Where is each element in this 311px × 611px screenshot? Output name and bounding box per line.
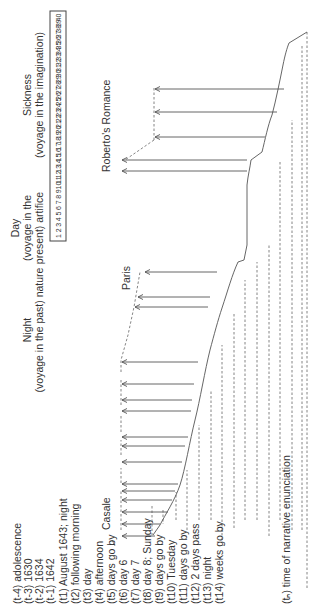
arrows: [122, 87, 284, 539]
timeline-label: (t8) day 8; Sunday: [141, 517, 153, 604]
header-sickness: Sickness (voyage in the imagination): [21, 32, 45, 158]
scale-number: 2: [55, 228, 62, 232]
chapter-scale: 1234567891011121314151617181920212223242…: [50, 11, 66, 241]
night-title: Night: [21, 318, 33, 343]
timeline-label: (t12) 2 days pass: [189, 523, 201, 604]
timeline-label: (t5) days go by: [105, 534, 117, 604]
scale-number: 3: [55, 223, 62, 227]
header-night: Night (voyage in the past) nature: [21, 267, 45, 392]
night-subtitle: (voyage in the past) nature: [33, 267, 45, 392]
scale-number: 4: [55, 217, 62, 221]
sickness-title: Sickness: [21, 74, 33, 116]
narrative-time-diagram: Night (voyage in the past) nature Day (v…: [0, 0, 311, 611]
day-title: Day: [9, 218, 21, 237]
scale-number: 8: [55, 195, 62, 199]
day-subtitle-2: present) artifice: [33, 192, 45, 265]
place-paris: Paris: [120, 266, 132, 290]
timeline-label: (t-1) 1642: [44, 558, 56, 604]
sickness-subtitle: (voyage in the imagination): [33, 32, 45, 158]
scale-number: 6: [55, 206, 62, 210]
scale-number: 7: [55, 200, 62, 204]
timeline-label: (t6) day 6: [117, 559, 129, 604]
timeline-label: (t3) day: [81, 568, 93, 604]
timeline-label: (t9) days go by: [153, 534, 165, 604]
enunciation-label: (tₙ) time of narrative enunciation: [280, 455, 292, 604]
place-casale: Casale: [100, 497, 112, 530]
place-roberto-romance: Roberto's Romance: [100, 79, 112, 172]
timeline-label: (t11) days go by: [177, 529, 189, 604]
timeline-label: (t1) August 1643; night: [57, 498, 69, 604]
timeline-label: (t4) afternoon: [93, 541, 105, 604]
scale-number: 5: [55, 212, 62, 216]
day-subtitle-1: (voyage in the: [21, 195, 33, 261]
header-day: Day (voyage in the present) artifice: [9, 192, 45, 265]
timeline-label: (t14) weeks go by: [213, 520, 225, 604]
timeline-label: (t10) Tuesday: [165, 539, 177, 604]
scale-number: 40: [55, 14, 62, 22]
timeline-label: (t13) night: [201, 557, 213, 604]
timeline-label: (t7) day 7: [129, 559, 141, 604]
scale-number: 1: [55, 234, 62, 238]
timeline-label: (t2) following morning: [69, 503, 81, 604]
timeline-labels: (t-4) adolescence(t-3) 1630(t-2) 1634(t-…: [11, 498, 225, 604]
